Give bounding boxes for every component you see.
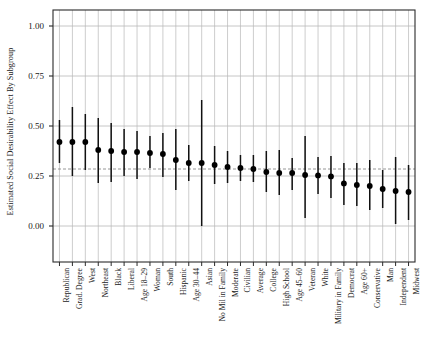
x-tick-label: Veteran [308,268,317,291]
x-tick-label: Conservative [373,268,382,308]
x-tick-label: Civilian [243,268,252,292]
x-tick-label: Liberal [127,268,136,290]
x-tick-label: West [88,268,97,283]
x-tick-label: Moderate [231,268,240,297]
x-tick-label: Age 18–29 [140,268,149,302]
x-tick-label: Republican [62,268,71,303]
x-tick-label: South [166,268,175,286]
x-tick-label: Midwest [412,268,421,295]
chart-figure: Estimated Social Desirability Effect By … [0,0,424,351]
x-tick-label: Democrat [347,268,356,298]
x-tick-label: Age 45–60 [295,268,304,302]
x-tick-label: White [321,268,330,287]
x-tick-label: Hispanic [179,268,188,295]
x-tick-label: Asian [205,268,214,286]
x-axis-tick-labels: RepublicanGrad. DegreeWestNortheastBlack… [0,0,424,351]
x-tick-label: Age 60+ [360,268,369,294]
x-tick-label: Black [114,268,123,286]
x-tick-label: College [269,268,278,292]
x-tick-label: Northeast [101,268,110,298]
x-tick-label: Average [256,268,265,293]
x-tick-label: Grad. Degree [75,268,84,309]
x-tick-label: Woman [153,268,162,291]
x-tick-label: Man [386,268,395,282]
x-tick-label: High School [282,268,291,306]
x-tick-label: Age 30–44 [192,268,201,302]
x-tick-label: Military in Family [334,268,343,324]
x-tick-label: No Mil in Family [218,268,227,321]
x-tick-label: Independent [399,268,408,306]
